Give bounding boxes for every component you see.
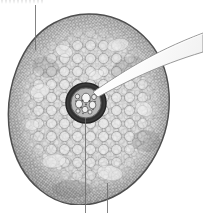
- leader-line-bottom-left: [85, 118, 86, 213]
- specimen-svg: [6, 13, 172, 205]
- leader-line-bottom-right: [107, 183, 108, 213]
- micrograph-figure: [0, 0, 203, 213]
- leader-line-top: [35, 5, 36, 50]
- clipped-text-artifact: [1, 0, 45, 4]
- root-cross-section-image: [6, 13, 172, 205]
